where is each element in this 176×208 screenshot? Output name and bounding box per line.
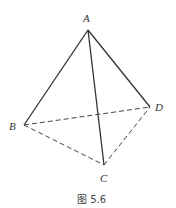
tetrahedron-diagram: A B C D 图 5.6	[0, 0, 176, 208]
edge-bc-hidden	[24, 125, 104, 165]
vertex-label-b: B	[9, 120, 16, 132]
vertex-label-c: C	[100, 172, 108, 184]
edge-cd-hidden	[104, 107, 150, 165]
edge-ab	[24, 30, 88, 125]
edge-ad	[88, 30, 150, 107]
edge-bd-hidden	[24, 107, 150, 125]
figure-caption: 图 5.6	[77, 194, 106, 205]
edge-ac	[88, 30, 104, 165]
vertex-label-d: D	[154, 101, 163, 113]
vertex-label-a: A	[82, 12, 90, 24]
